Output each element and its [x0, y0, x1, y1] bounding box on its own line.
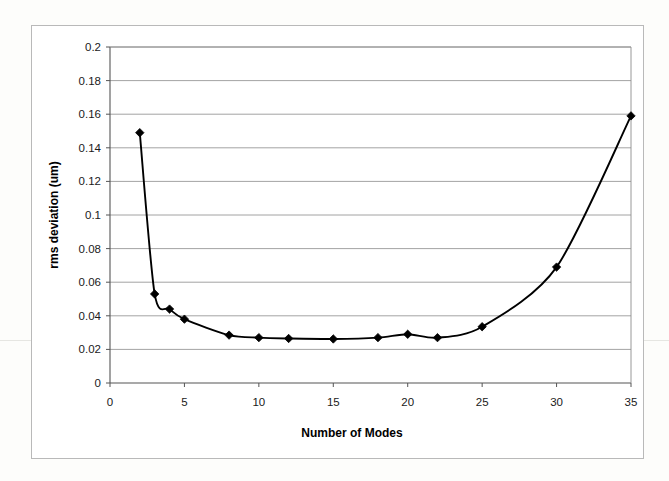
y-tick-label: 0.1 [85, 209, 101, 221]
data-point-markers [136, 112, 636, 344]
x-axis-tick-labels: 05101520253035 [107, 396, 638, 408]
chart-svg: 00.020.040.060.080.10.120.140.160.180.2 … [0, 0, 669, 481]
data-point-marker [255, 333, 263, 341]
data-point-marker [150, 290, 158, 298]
figure-container: 00.020.040.060.080.10.120.140.160.180.2 … [0, 0, 669, 481]
gridline-group [110, 47, 631, 349]
y-tick-label: 0.04 [79, 310, 102, 322]
data-point-marker [180, 315, 188, 323]
data-point-marker [374, 333, 382, 341]
x-tick-label: 30 [550, 396, 563, 408]
x-tick-label: 5 [181, 396, 187, 408]
y-axis-tick-group [106, 47, 110, 383]
y-tick-label: 0.16 [79, 108, 101, 120]
x-tick-label: 10 [252, 396, 265, 408]
data-point-marker [284, 334, 292, 342]
x-tick-label: 35 [625, 396, 638, 408]
data-point-marker [329, 335, 337, 343]
y-tick-label: 0.18 [79, 75, 101, 87]
data-point-marker [627, 112, 635, 120]
data-point-marker [478, 323, 486, 331]
y-tick-label: 0.14 [79, 142, 102, 154]
y-tick-label: 0.12 [79, 175, 101, 187]
data-point-marker [225, 331, 233, 339]
x-tick-label: 15 [327, 396, 340, 408]
y-tick-label: 0.2 [85, 41, 101, 53]
y-tick-label: 0.06 [79, 276, 101, 288]
x-tick-label: 25 [476, 396, 489, 408]
data-point-marker [404, 330, 412, 338]
x-axis-title: Number of Modes [301, 426, 403, 440]
x-tick-label: 20 [401, 396, 414, 408]
data-series-line [140, 116, 631, 339]
y-axis-tick-labels: 00.020.040.060.080.10.120.140.160.180.2 [79, 41, 102, 389]
y-tick-label: 0.02 [79, 343, 101, 355]
data-point-marker [136, 128, 144, 136]
x-axis-tick-group [110, 383, 631, 387]
y-axis-title: rms deviation (um) [47, 161, 61, 268]
y-tick-label: 0.08 [79, 243, 101, 255]
y-tick-label: 0 [95, 377, 101, 389]
x-tick-label: 0 [107, 396, 113, 408]
data-point-marker [433, 333, 441, 341]
